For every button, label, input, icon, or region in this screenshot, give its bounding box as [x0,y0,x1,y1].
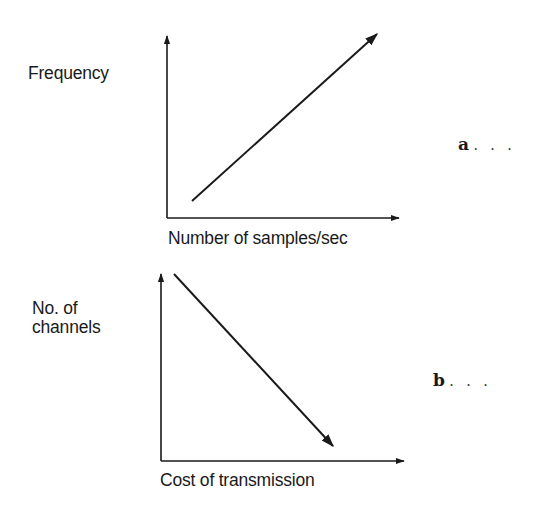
panel-b-trend-arrow [174,274,333,446]
panel-b-axes [161,274,404,461]
panel-b-x-label: Cost of transmission [160,471,315,490]
panel-b-part-label: b [433,370,445,390]
panel-b-y-label: No. of channels [32,299,100,337]
panel-a-axes [167,36,399,218]
panel-a-part-label: a [458,134,469,154]
panel-b-ellipsis: . . . [449,373,491,389]
panel-a-x-label: Number of samples/sec [168,229,348,248]
panel-a-ellipsis: . . . [473,137,515,153]
panel-a-y-label: Frequency [28,64,109,83]
panel-a-caption: a . . . [458,134,516,154]
panel-b-y-label-line-1: No. of [32,299,100,318]
panel-b-caption: b . . . [433,370,492,390]
panel-b-y-label-line-2: channels [32,318,100,337]
panel-a-trend-arrow [192,34,377,201]
